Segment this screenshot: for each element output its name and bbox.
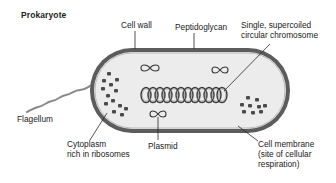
label-peptidoglycan: Peptidoglycan [175, 22, 227, 32]
flagellum [27, 84, 94, 112]
diagram-title: Prokaryote [21, 10, 66, 20]
label-chromosome-line2: circular chromosome [241, 30, 318, 40]
label-cell-membrane: Cell membrane (site of cellular respirat… [258, 139, 314, 169]
cytoplasm [94, 52, 286, 129]
label-cell-wall: Cell wall [121, 20, 152, 30]
label-cytoplasm-line1: Cytoplasm [67, 139, 130, 149]
label-membrane-line3: respiration) [258, 159, 314, 169]
label-chromosome: Single, supercoiled circular chromosome [241, 20, 318, 40]
label-plasmid: Plasmid [148, 141, 178, 151]
label-chromosome-line1: Single, supercoiled [241, 20, 318, 30]
label-flagellum: Flagellum [17, 114, 53, 124]
label-cytoplasm-line2: rich in ribosomes [67, 149, 130, 159]
label-cytoplasm: Cytoplasm rich in ribosomes [67, 139, 130, 159]
label-membrane-line1: Cell membrane [258, 139, 314, 149]
leader-cytoplasm [90, 113, 107, 140]
label-membrane-line2: (site of cellular [258, 149, 314, 159]
